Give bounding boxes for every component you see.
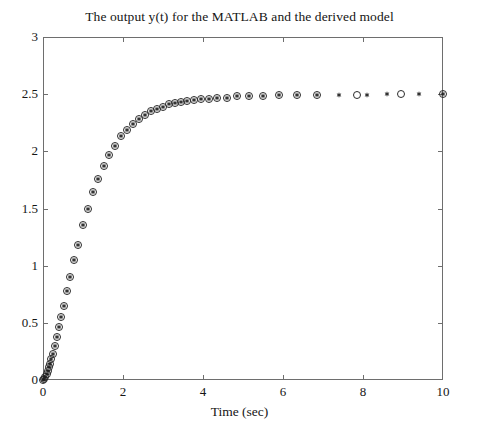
data-point-star <box>43 374 48 379</box>
x-tick-bottom <box>123 375 124 380</box>
data-point-star <box>225 95 230 100</box>
data-point-circle <box>141 111 149 119</box>
data-point-star <box>53 343 58 348</box>
data-point-star <box>45 368 50 373</box>
data-point-circle <box>397 90 405 98</box>
data-point-circle <box>233 92 241 100</box>
data-point-circle <box>41 373 49 381</box>
data-point-circle <box>197 95 205 103</box>
y-tick-left <box>43 266 48 267</box>
x-tick-top <box>283 37 284 42</box>
data-point-star <box>113 143 118 148</box>
x-tick-bottom <box>203 375 204 380</box>
data-point-star <box>215 95 220 100</box>
data-point-circle <box>293 91 301 99</box>
data-point-star <box>101 164 106 169</box>
data-point-star <box>277 93 282 98</box>
data-point-star <box>207 96 212 101</box>
y-tick-label: 1 <box>32 258 39 274</box>
data-point-circle <box>63 287 71 295</box>
y-tick-right <box>438 266 443 267</box>
y-tick-left <box>43 94 48 95</box>
data-point-star <box>119 134 124 139</box>
y-tick-right <box>438 209 443 210</box>
data-point-star <box>51 351 56 356</box>
x-tick-bottom <box>363 375 364 380</box>
data-point-circle <box>51 342 59 350</box>
data-point-star <box>47 365 52 370</box>
y-tick-label: 3 <box>32 29 39 45</box>
y-tick-right <box>438 94 443 95</box>
data-point-circle <box>147 107 155 115</box>
axes-frame <box>43 37 443 380</box>
data-point-star <box>125 127 130 132</box>
data-point-circle <box>84 205 92 213</box>
data-point-circle <box>39 376 47 384</box>
data-point-circle <box>40 375 48 383</box>
x-tick-top <box>203 37 204 42</box>
data-point-circle <box>74 241 82 249</box>
data-point-star <box>417 92 422 97</box>
data-point-star <box>199 96 204 101</box>
data-point-star <box>107 152 112 157</box>
data-point-star <box>91 190 96 195</box>
data-point-circle <box>45 363 53 371</box>
data-point-circle <box>245 92 253 100</box>
data-point-star <box>48 361 53 366</box>
data-point-circle <box>171 99 179 107</box>
data-point-star <box>49 357 54 362</box>
data-point-circle <box>79 221 87 229</box>
data-point-circle <box>46 360 54 368</box>
x-tick-label: 8 <box>360 384 367 400</box>
data-point-star <box>247 94 252 99</box>
data-point-circle <box>89 188 97 196</box>
data-point-star <box>68 275 73 280</box>
data-point-circle <box>100 162 108 170</box>
y-tick-right <box>438 323 443 324</box>
data-point-circle <box>213 94 221 102</box>
y-tick-left <box>43 323 48 324</box>
data-point-star <box>167 102 172 107</box>
data-point-star <box>161 104 166 109</box>
data-point-circle <box>60 302 68 310</box>
data-point-star <box>65 288 70 293</box>
data-point-circle <box>57 313 65 321</box>
data-point-star <box>337 93 342 98</box>
data-point-circle <box>43 370 51 378</box>
data-point-circle <box>49 350 57 358</box>
data-point-circle <box>165 100 173 108</box>
data-point-circle <box>129 120 137 128</box>
x-tick-top <box>363 37 364 42</box>
data-point-star <box>131 121 136 126</box>
data-point-circle <box>353 91 361 99</box>
data-point-star <box>72 257 77 262</box>
data-point-star <box>143 112 148 117</box>
data-point-star <box>96 176 101 181</box>
x-tick-bottom <box>283 375 284 380</box>
data-point-star <box>185 99 190 104</box>
data-point-star <box>55 334 60 339</box>
data-point-circle <box>117 132 125 140</box>
plot-area <box>43 37 443 380</box>
data-point-star <box>81 222 86 227</box>
y-tick-left <box>43 151 48 152</box>
y-tick-label: 0.5 <box>22 315 38 331</box>
x-tick-label: 4 <box>200 384 207 400</box>
data-point-circle <box>275 91 283 99</box>
data-point-circle <box>66 273 74 281</box>
y-tick-label: 1.5 <box>22 201 38 217</box>
data-point-circle <box>159 103 167 111</box>
x-axis-label: Time (sec) <box>0 404 479 420</box>
data-point-star <box>42 376 47 381</box>
data-point-circle <box>94 175 102 183</box>
x-tick-label: 6 <box>280 384 287 400</box>
data-point-star <box>261 94 266 99</box>
y-tick-label: 2 <box>32 143 39 159</box>
data-point-circle <box>313 91 321 99</box>
data-point-star <box>44 372 49 377</box>
figure-canvas: The output y(t) for the MATLAB and the d… <box>0 0 479 436</box>
data-point-circle <box>205 95 213 103</box>
data-point-circle <box>105 151 113 159</box>
data-point-circle <box>153 105 161 113</box>
data-point-star <box>149 109 154 114</box>
